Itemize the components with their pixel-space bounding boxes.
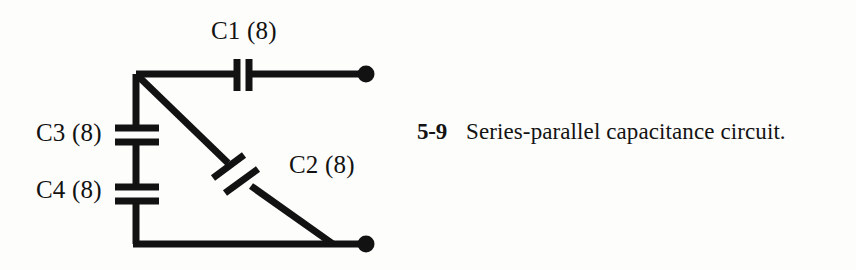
capacitor-c3-label: C3 (8) bbox=[36, 120, 102, 145]
capacitor-c2-label: C2 (8) bbox=[289, 152, 355, 177]
figure-caption: 5-9Series-parallel capacitance circuit. bbox=[417, 119, 847, 145]
figure-number: 5-9 bbox=[417, 119, 447, 144]
circuit-schematic: C1 (8) C2 (8) C3 (8) C4 (8) bbox=[0, 0, 420, 270]
capacitor-c2-plate-upper bbox=[213, 155, 244, 178]
wire-diagonal-lower-segment bbox=[251, 186, 333, 244]
capacitor-c1-symbol bbox=[237, 59, 249, 91]
capacitor-c4-symbol bbox=[115, 187, 159, 201]
capacitor-c3-symbol bbox=[115, 128, 159, 142]
figure-caption-text: Series-parallel capacitance circuit. bbox=[466, 119, 786, 144]
terminal-top-right-dot bbox=[358, 66, 375, 83]
capacitor-c1-label: C1 (8) bbox=[211, 18, 277, 43]
capacitor-c4-label: C4 (8) bbox=[36, 177, 102, 202]
wire-diagonal-upper-segment bbox=[138, 76, 228, 163]
figure-5-9: C1 (8) C2 (8) C3 (8) C4 (8) 5-9Series-pa… bbox=[0, 0, 856, 270]
terminal-bottom-right-dot bbox=[358, 236, 375, 253]
